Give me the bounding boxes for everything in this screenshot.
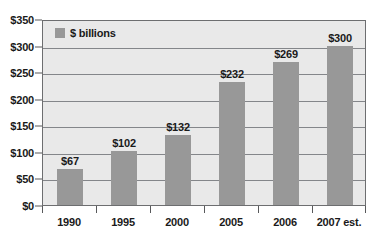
x-axis-tick-mark [42, 206, 43, 213]
bar-value-label: $132 [166, 121, 190, 133]
bar-value-label: $102 [112, 137, 136, 149]
bar-group: $269 [259, 21, 313, 205]
y-axis-tick-mark [35, 46, 42, 47]
bar-value-label: $300 [328, 32, 352, 44]
y-axis: $0$50$100$150$200$250$300$350 [0, 0, 40, 243]
bar-value-label: $67 [61, 155, 79, 167]
x-axis-category-label: 1990 [57, 216, 81, 228]
y-axis-tick-mark [35, 126, 42, 127]
bar-group: $102 [97, 21, 151, 205]
bar [219, 82, 245, 205]
bar [111, 151, 137, 205]
x-axis-tick-mark [150, 206, 151, 213]
x-axis-tick-mark [258, 206, 259, 213]
x-axis-tick-mark [365, 206, 366, 213]
bar [165, 135, 191, 205]
y-axis-tick-label: $0 [22, 200, 34, 212]
x-axis-category-label: 2006 [273, 216, 297, 228]
legend: $ billions [55, 27, 116, 39]
x-axis-category-label: 2005 [219, 216, 243, 228]
bar [57, 169, 83, 205]
x-axis-tick-mark [204, 206, 205, 213]
bar-value-label: $232 [220, 68, 244, 80]
x-axis-category-label: 1995 [111, 216, 135, 228]
y-axis-tick-label: $150 [10, 120, 34, 132]
y-axis-tick-label: $100 [10, 147, 34, 159]
legend-label-dollar-billions: $ billions [70, 27, 116, 39]
bar [273, 62, 299, 205]
bar-value-label: $269 [274, 48, 298, 60]
bar-group: $132 [151, 21, 205, 205]
y-axis-tick-label: $50 [16, 173, 34, 185]
bars-layer: $67$102$132$232$269$300 [43, 21, 365, 205]
y-axis-tick-label: $300 [10, 41, 34, 53]
bar-group: $232 [205, 21, 259, 205]
plot-area: $67$102$132$232$269$300 $ billions [42, 20, 366, 206]
bar-chart-figure: $0$50$100$150$200$250$300$350 $67$102$13… [0, 0, 381, 243]
bar-group: $300 [313, 21, 367, 205]
y-axis-tick-mark [35, 20, 42, 21]
y-axis-tick-mark [35, 99, 42, 100]
legend-swatch-dollar-billions [55, 28, 65, 38]
y-axis-tick-mark [35, 152, 42, 153]
x-axis-tick-mark [312, 206, 313, 213]
y-axis-tick-label: $350 [10, 14, 34, 26]
bar [327, 46, 353, 205]
x-axis: 199019952000200520062007 est. [42, 206, 366, 243]
x-axis-tick-mark [96, 206, 97, 213]
x-axis-category-label: 2007 est. [317, 216, 362, 228]
x-axis-category-label: 2000 [165, 216, 189, 228]
bar-group: $67 [43, 21, 97, 205]
y-axis-tick-mark [35, 179, 42, 180]
y-axis-tick-label: $250 [10, 67, 34, 79]
y-axis-tick-mark [35, 73, 42, 74]
y-axis-tick-label: $200 [10, 94, 34, 106]
y-axis-tick-mark [35, 206, 42, 207]
